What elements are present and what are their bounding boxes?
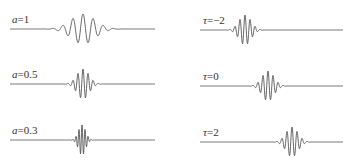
- label-value: =−2: [207, 14, 225, 26]
- label-tau-0: τ=0: [203, 71, 219, 82]
- label-value: =0.5: [18, 68, 38, 80]
- label-value: =1: [18, 13, 30, 25]
- wavelet-trace-a-1: [10, 14, 155, 43]
- wavelet-figure: [0, 0, 353, 167]
- label-value: =0: [207, 70, 219, 82]
- label-tau-minus-2: τ=−2: [203, 15, 225, 26]
- label-value: =0.3: [18, 124, 38, 136]
- label-a-0.3: a=0.3: [12, 125, 37, 136]
- label-a-1: a=1: [12, 14, 29, 25]
- label-value: =2: [207, 126, 219, 138]
- wavelet-trace-τ-0: [200, 71, 343, 100]
- wavelet-trace-τ-2: [200, 127, 343, 156]
- label-tau-2: τ=2: [203, 127, 219, 138]
- label-a-0.5: a=0.5: [12, 69, 37, 80]
- translation-column: [200, 15, 343, 156]
